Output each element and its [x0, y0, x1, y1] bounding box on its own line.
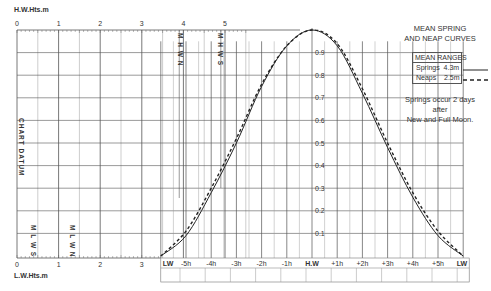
- time-tick-label: +4h: [407, 260, 419, 267]
- chart-title: MEAN SPRING AND NEAP CURVES: [395, 24, 485, 44]
- springs-note: Springs occur 2 days after New and Full …: [390, 95, 490, 125]
- factor-tick-label: 0.3: [315, 185, 325, 192]
- legend-title: MEAN RANGES: [413, 53, 461, 63]
- time-tick-label: +5h: [432, 260, 444, 267]
- lw-tick-label: 1: [57, 261, 61, 268]
- time-tick-label: -4h: [206, 260, 216, 267]
- legend-box: MEAN RANGES Springs 4.3m Neaps 2.5m: [412, 52, 462, 84]
- time-tick-label: H.W: [305, 260, 319, 267]
- time-tick-label: -2h: [257, 260, 267, 267]
- time-tick-label: -1h: [282, 260, 292, 267]
- hw-tick-label: 1: [57, 20, 61, 27]
- note-line1: Springs occur 2 days: [390, 95, 490, 105]
- time-tick-label: LW: [163, 260, 174, 267]
- hw-tick-label: 0: [15, 20, 19, 27]
- legend-springs: Springs 4.3m: [413, 63, 461, 73]
- factor-tick-label: 0.9: [315, 49, 325, 56]
- hw-tick-label: 2: [98, 20, 102, 27]
- time-tick-label: -3h: [231, 260, 241, 267]
- time-tick-label: +1h: [331, 260, 343, 267]
- chart-title-line2: AND NEAP CURVES: [395, 34, 485, 44]
- lw-tick-label: 2: [98, 261, 102, 268]
- chart-datum-label: CHART DATUM: [18, 118, 25, 177]
- lw-axis-label: L.W.Hts.m: [14, 272, 48, 279]
- chart-title-line1: MEAN SPRING: [395, 24, 485, 34]
- hw-tick-label: 5: [223, 20, 227, 27]
- mhws-label: M H W S: [217, 33, 224, 66]
- time-tick-label: LW: [457, 260, 468, 267]
- time-tick-label: +3h: [382, 260, 394, 267]
- lw-tick-label: 3: [140, 261, 144, 268]
- factor-tick-label: 0.5: [315, 140, 325, 147]
- hw-tick-label: 4: [181, 20, 185, 27]
- note-line2: after: [390, 105, 490, 115]
- note-line3: New and Full Moon.: [390, 115, 490, 125]
- time-tick-label: -5h: [181, 260, 191, 267]
- mlws-label: M L W S: [30, 225, 37, 257]
- factor-tick-label: 0.8: [315, 72, 325, 79]
- mlwn-label: M L W N: [69, 225, 76, 258]
- lw-tick-label: 0: [15, 261, 19, 268]
- factor-tick-label: 0.6: [315, 117, 325, 124]
- factor-tick-label: 0.4: [315, 162, 325, 169]
- time-tick-label: +2h: [356, 260, 368, 267]
- hw-tick-label: 3: [140, 20, 144, 27]
- legend-neaps: Neaps 2.5m: [413, 73, 461, 83]
- hw-axis-label: H.W.Hts.m: [14, 6, 49, 13]
- factor-tick-label: 0.1: [315, 230, 325, 237]
- factor-tick-label: 0.7: [315, 94, 325, 101]
- factor-tick-label: 0.2: [315, 207, 325, 214]
- mhwn-label: M H W N: [177, 33, 184, 66]
